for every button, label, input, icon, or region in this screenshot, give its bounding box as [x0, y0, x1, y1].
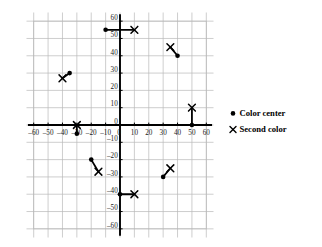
y-tick-label: 50 — [111, 31, 119, 39]
y-tick-label: –10 — [106, 135, 118, 143]
color-center-dot-marker — [75, 131, 80, 136]
color-center-dot-marker — [67, 71, 72, 76]
color-center-dot-marker — [190, 123, 195, 128]
y-tick-label: –30 — [106, 170, 118, 178]
y-tick-label: –40 — [106, 187, 118, 195]
y-tick-label: 0 — [114, 118, 118, 126]
x-tick-label: 10 — [131, 129, 139, 137]
legend-item-label: Color center — [240, 108, 286, 118]
x-tick-label: 50 — [188, 129, 196, 137]
legend-item-label: Second color — [240, 124, 287, 134]
scatter-chart-figure: –60–50–40–30–20–100102030405060 60504030… — [0, 0, 322, 247]
legend-dot-icon — [231, 111, 236, 116]
x-tick-label: 20 — [145, 129, 153, 137]
x-tick-label: 40 — [174, 129, 182, 137]
y-tick-label: 10 — [111, 100, 119, 108]
x-tick-label: –60 — [27, 129, 39, 137]
y-tick-label: 40 — [111, 49, 119, 57]
y-tick-label: 60 — [111, 14, 119, 22]
color-center-dot-marker — [89, 157, 94, 162]
y-tick-label: –60 — [106, 222, 118, 230]
x-tick-label: –40 — [56, 129, 68, 137]
y-tick-label: –50 — [106, 204, 118, 212]
x-tick-label: –50 — [42, 129, 54, 137]
color-center-dot-marker — [161, 175, 166, 180]
y-tick-label: –20 — [106, 152, 118, 160]
y-tick-label: 20 — [111, 83, 119, 91]
chart-canvas: –60–50–40–30–20–100102030405060 60504030… — [0, 0, 322, 247]
color-center-dot-marker — [103, 28, 108, 33]
y-tick-label: 30 — [111, 66, 119, 74]
x-tick-label: –20 — [85, 129, 97, 137]
x-tick-label: 30 — [160, 129, 168, 137]
color-center-dot-marker — [118, 192, 123, 197]
x-tick-label: 60 — [203, 129, 211, 137]
color-center-dot-marker — [175, 53, 180, 58]
